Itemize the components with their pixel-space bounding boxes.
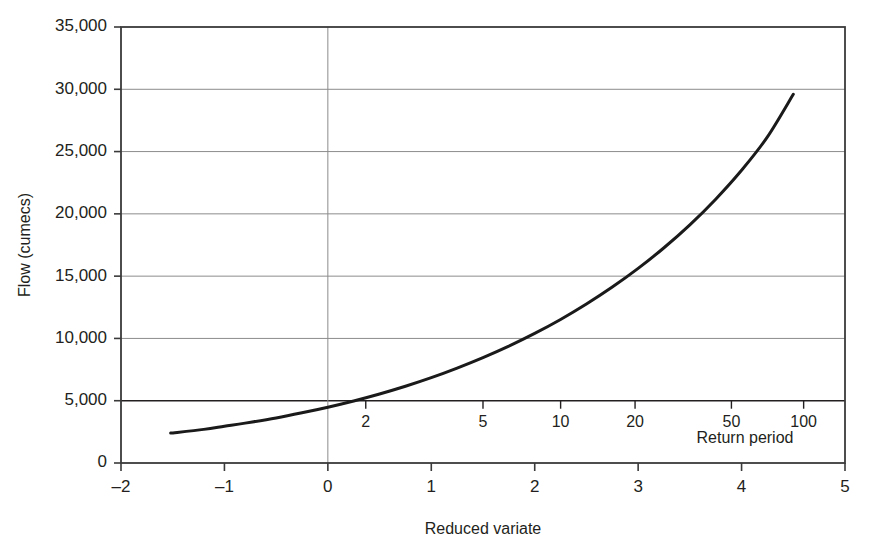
x-tick-label--1: –1 [215, 477, 234, 496]
return-period-axis-title: Return period [697, 429, 794, 446]
rp-tick-label-10: 10 [552, 413, 570, 430]
y-axis: 05,00010,00015,00020,00025,00030,00035,0… [55, 16, 121, 471]
x-tick-label-3: 3 [633, 477, 642, 496]
flood-frequency-chart-figure: 05,00010,00015,00020,00025,00030,00035,0… [0, 0, 872, 549]
rp-tick-label-5: 5 [479, 413, 488, 430]
rp-tick-label-20: 20 [626, 413, 644, 430]
rp-tick-label-50: 50 [723, 413, 741, 430]
plot-frame [121, 27, 845, 463]
y-tick-label-5000: 5,000 [64, 390, 107, 409]
data-series-layer [171, 94, 794, 433]
x-tick-label-4: 4 [737, 477, 746, 496]
x-tick-label-1: 1 [427, 477, 436, 496]
x-tick-label-2: 2 [530, 477, 539, 496]
y-tick-label-30000: 30,000 [55, 79, 107, 98]
series-line-0 [171, 94, 794, 433]
x-axis-title: Reduced variate [425, 520, 542, 537]
x-tick-label--2: –2 [112, 477, 131, 496]
x-axis: –2–1012345 [112, 463, 850, 496]
y-tick-label-10000: 10,000 [55, 328, 107, 347]
rp-tick-label-2: 2 [361, 413, 370, 430]
y-tick-label-15000: 15,000 [55, 266, 107, 285]
x-tick-label-5: 5 [840, 477, 849, 496]
x-tick-label-0: 0 [323, 477, 332, 496]
y-axis-title: Flow (cumecs) [16, 193, 33, 297]
y-tick-label-20000: 20,000 [55, 203, 107, 222]
horizontal-gridlines [121, 89, 845, 400]
y-tick-label-0: 0 [98, 452, 107, 471]
chart-canvas: 05,00010,00015,00020,00025,00030,00035,0… [0, 0, 872, 549]
y-tick-label-25000: 25,000 [55, 141, 107, 160]
y-tick-label-35000: 35,000 [55, 16, 107, 35]
plot-border [121, 27, 845, 463]
return-period-axis: 25102050100 [361, 401, 817, 430]
rp-tick-label-100: 100 [790, 413, 817, 430]
